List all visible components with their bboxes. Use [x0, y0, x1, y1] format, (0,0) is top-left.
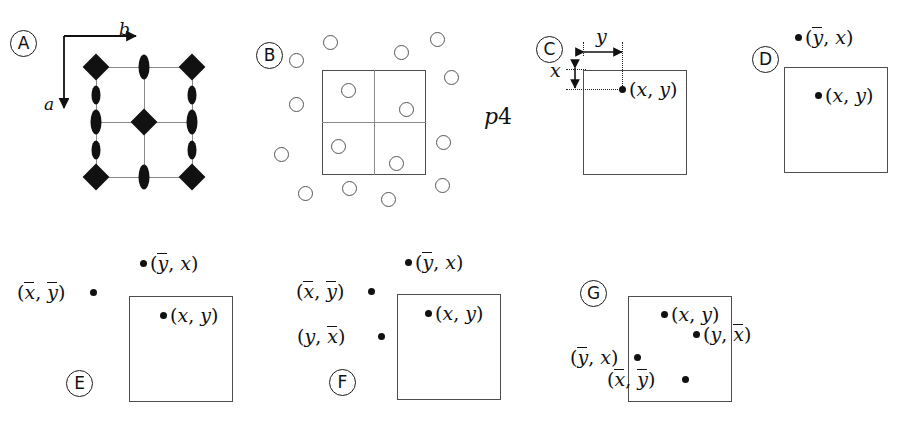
- general-position-circle: [444, 70, 459, 85]
- panel-g-point-dot-x-y: [661, 311, 668, 318]
- panel-d-point-label-x-y: (x, y): [825, 86, 873, 105]
- panel-g-point-dot-xbar-ybar: [682, 376, 689, 383]
- panel-f-point-dot-x-y: [425, 310, 432, 317]
- panel-f-point-label-y-xbar: (y, x): [297, 327, 345, 346]
- two-fold-rotation-symbol: [92, 140, 101, 159]
- two-fold-rotation-symbol: [188, 85, 197, 104]
- panel-badge-e: E: [66, 370, 93, 397]
- four-fold-rotation-symbol: [179, 164, 206, 191]
- plane-group-number: 4: [498, 104, 512, 129]
- panel-c-dim-label-x: x: [550, 61, 561, 80]
- panel-d-point-dot-ybar-x: [795, 34, 802, 41]
- panel-f-point-label-x-y: (x, y): [435, 304, 483, 323]
- panel-c-point-label: (x, y): [629, 80, 677, 99]
- panel-c-guide-point: [566, 89, 624, 90]
- panel-badge-f: F: [329, 369, 356, 396]
- panel-c-dimension-arrow-x: [567, 62, 583, 98]
- panel-e-point-dot-ybar-x: [140, 260, 147, 267]
- panel-c-guide-top: [566, 69, 586, 70]
- panel-b-divider-horizontal: [322, 122, 426, 123]
- two-fold-rotation-symbol: [139, 55, 150, 80]
- panel-f-point-dot-ybar-x: [405, 259, 412, 266]
- two-fold-rotation-symbol: [139, 165, 150, 190]
- general-position-circle: [298, 186, 313, 201]
- general-position-circle: [430, 32, 445, 47]
- general-position-circle: [381, 192, 396, 207]
- panel-e-point-label-xbar-ybar: (x, y): [17, 283, 65, 302]
- panel-c-tick-right: [622, 42, 623, 88]
- figure-root: A b a B: [0, 0, 918, 429]
- general-position-circle: [399, 102, 414, 117]
- panel-badge-g: G: [580, 280, 607, 307]
- general-position-circle: [394, 45, 409, 60]
- panel-f-point-label-xbar-ybar: (x, y): [296, 282, 344, 301]
- four-fold-rotation-symbol: [83, 164, 110, 191]
- two-fold-rotation-symbol: [188, 140, 197, 159]
- general-position-circle: [331, 139, 346, 154]
- panel-f-point-label-ybar-x: (y, x): [415, 253, 463, 272]
- panel-g-point-label-xbar-ybar: (x, y): [607, 370, 655, 389]
- general-position-circle: [274, 147, 289, 162]
- panel-d-point-label-ybar-x: (y, x): [805, 28, 853, 47]
- panel-g-point-label-x-y: (x, y): [671, 305, 719, 324]
- panel-e-point-label-ybar-x: (y, x): [150, 254, 198, 273]
- plane-group-letter: p: [484, 104, 498, 129]
- general-position-circle: [323, 35, 338, 50]
- general-position-circle: [436, 135, 451, 150]
- panel-badge-d: D: [752, 46, 779, 73]
- panel-c-tick-left: [583, 42, 584, 56]
- plane-group-label: p4: [484, 106, 512, 128]
- panel-g-point-dot-y-xbar: [693, 331, 700, 338]
- four-fold-rotation-symbol: [179, 54, 206, 81]
- panel-g-point-label-y-xbar: (y, x): [703, 325, 751, 344]
- general-position-circle: [389, 156, 404, 171]
- panel-a-axis-a-label: a: [44, 96, 54, 113]
- panel-badge-a: A: [10, 30, 37, 57]
- general-position-circle: [435, 178, 450, 193]
- panel-c-dim-label-y: y: [596, 27, 607, 46]
- panel-d-point-dot-x-y: [815, 92, 822, 99]
- two-fold-rotation-symbol: [92, 85, 101, 104]
- panel-c-point-dot: [619, 86, 626, 93]
- panel-e-point-dot-xbar-ybar: [90, 289, 97, 296]
- panel-f-point-dot-xbar-ybar: [368, 288, 375, 295]
- panel-d-unit-cell: [784, 67, 888, 173]
- general-position-circle: [342, 181, 357, 196]
- general-position-circle: [289, 53, 304, 68]
- panel-a-axis-b-label: b: [119, 21, 130, 38]
- general-position-circle: [341, 83, 356, 98]
- panel-f-point-dot-y-xbar: [378, 333, 385, 340]
- two-fold-rotation-symbol: [187, 110, 198, 135]
- panel-g-point-label-ybar-x: (y, x): [570, 348, 618, 367]
- panel-badge-b: B: [256, 42, 283, 69]
- panel-e-point-dot-x-y: [160, 312, 167, 319]
- two-fold-rotation-symbol: [91, 110, 102, 135]
- panel-e-point-label-x-y: (x, y): [170, 306, 218, 325]
- panel-g-point-dot-ybar-x: [634, 354, 641, 361]
- general-position-circle: [289, 97, 304, 112]
